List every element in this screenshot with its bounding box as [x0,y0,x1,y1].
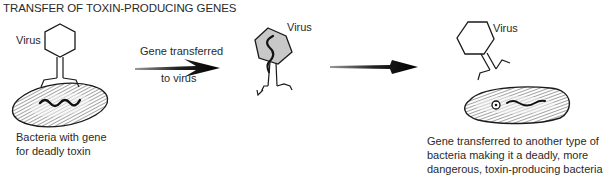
stage1-bacteria [10,78,111,133]
virus-head-icon [457,22,494,54]
arrow1-label-top: Gene transferred [140,45,223,58]
stage2-virus [255,28,292,95]
virus-leg-icon [478,70,490,80]
virus-leg-icon [262,86,268,90]
virus-leg-icon [277,84,292,90]
stage3-caption-line3: dangerous, toxin-producing bacteria [427,163,603,176]
stage1-caption-line1: Bacteria with gene [16,131,107,144]
stage1-caption-line2: for deadly toxin [16,145,91,158]
stage3-bacteria [465,87,570,124]
stage1-virus [41,24,79,87]
stage2-virus-label: Virus [287,21,312,34]
arrow1-label-bottom: to virus [161,72,196,85]
stage3-caption-line1: Gene transferred to another type of [427,135,599,148]
stage3-caption-line2: bacteria making it a deadly, more [427,149,588,162]
stage1-virus-label: Virus [16,34,41,47]
virus-head-icon [45,24,75,57]
arrow-2-icon [330,60,418,74]
virus-leg-icon [496,60,510,69]
stage3-virus-label: Virus [493,22,518,35]
